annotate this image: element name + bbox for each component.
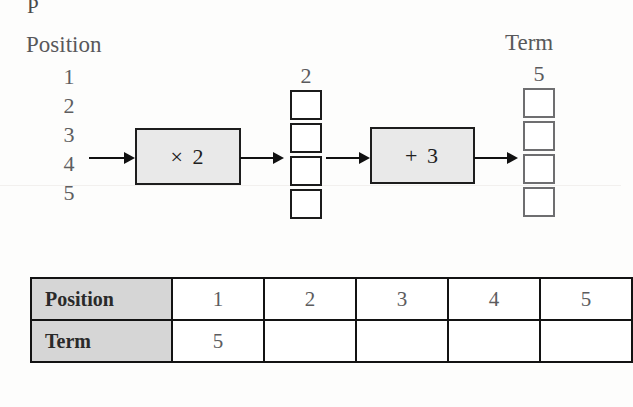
arrow-shaft: [240, 157, 274, 159]
term-column-header: Term: [505, 30, 553, 56]
arrow-shaft: [326, 157, 360, 159]
function-machine-add: + 3: [370, 127, 475, 184]
intermediate-given-value: 2: [283, 62, 329, 90]
term-given-value: 5: [516, 60, 562, 88]
table-cell[interactable]: 3: [356, 278, 448, 320]
table: Position 1 2 3 4 5 Term 5: [30, 277, 633, 363]
arrow-head: [359, 152, 370, 164]
answer-box[interactable]: [523, 121, 555, 151]
answer-box[interactable]: [290, 156, 322, 186]
table-cell[interactable]: 2: [264, 278, 356, 320]
term-answer-column: 5: [516, 60, 562, 220]
table-cell[interactable]: [356, 320, 448, 362]
intermediate-answer-column: 2: [283, 62, 329, 222]
position-number: 3: [52, 120, 86, 149]
position-number: 1: [52, 62, 86, 91]
arrow-shaft: [474, 157, 508, 159]
table-row: Position 1 2 3 4 5: [31, 278, 632, 320]
answer-box[interactable]: [523, 154, 555, 184]
arrow-after-multiply-icon: [240, 152, 284, 164]
answer-box[interactable]: [290, 123, 322, 153]
table-row-header-position: Position: [31, 278, 172, 320]
position-number-column: 1 2 3 4 5: [52, 62, 86, 207]
table-cell[interactable]: [540, 320, 632, 362]
table-cell[interactable]: 4: [448, 278, 540, 320]
table-cell[interactable]: 5: [172, 320, 264, 362]
answer-box[interactable]: [523, 187, 555, 217]
arrow-input-icon: [89, 152, 135, 164]
arrow-output-icon: [474, 152, 518, 164]
table-cell[interactable]: [264, 320, 356, 362]
position-number: 2: [52, 91, 86, 120]
arrow-head: [124, 152, 135, 164]
arrow-shaft: [89, 157, 125, 159]
scan-artifact-glyph: P: [27, 0, 39, 19]
function-machine-multiply: × 2: [135, 128, 241, 185]
table-cell[interactable]: [448, 320, 540, 362]
answer-box[interactable]: [290, 90, 322, 120]
table-row-header-term: Term: [31, 320, 172, 362]
position-number: 5: [52, 178, 86, 207]
answer-box[interactable]: [523, 88, 555, 118]
table-cell[interactable]: 1: [172, 278, 264, 320]
position-term-table: Position 1 2 3 4 5 Term 5: [30, 277, 608, 363]
arrow-before-add-icon: [326, 152, 370, 164]
table-cell[interactable]: 5: [540, 278, 632, 320]
answer-box[interactable]: [290, 189, 322, 219]
table-row: Term 5: [31, 320, 632, 362]
position-number: 4: [52, 149, 86, 178]
position-column-header: Position: [26, 32, 101, 58]
